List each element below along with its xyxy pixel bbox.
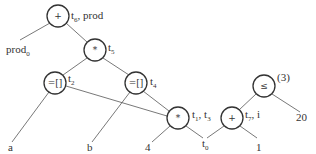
leaf-prod0: prod0	[6, 43, 30, 58]
node-leq: ≤ (3)	[253, 71, 290, 97]
node-plus-right: + t7, i	[221, 107, 260, 129]
edge-timeslow-t0	[186, 126, 203, 138]
edge-plusright-t0	[207, 126, 224, 138]
svg-text:≤: ≤	[260, 81, 268, 91]
leaf-t0: t0	[202, 137, 209, 152]
edge-indexright-timeslow	[143, 91, 169, 111]
node-times-low: * t1, t3	[167, 107, 211, 129]
svg-text:=[]: =[]	[129, 78, 144, 88]
edge-timeslow-4	[152, 126, 170, 142]
edge-plus-prod0	[20, 23, 50, 40]
leaf-1: 1	[256, 141, 262, 153]
svg-text:=[]: =[]	[48, 78, 63, 88]
edge-indexleft-timeslow	[66, 86, 167, 116]
edge-plus-times	[66, 23, 87, 42]
edge-plusright-1	[240, 126, 257, 138]
node-label: t1, t3	[192, 108, 211, 123]
leaf-b: b	[87, 141, 93, 153]
node-label: t7, i	[245, 108, 260, 123]
edge-indexleft-a	[12, 92, 49, 142]
edge-times-indexleft	[63, 58, 87, 75]
node-index-left: =[] t2	[44, 72, 75, 94]
node-label: t2	[68, 72, 75, 87]
leaf-4: 4	[145, 141, 151, 153]
edge-leq-20	[272, 94, 300, 112]
node-label: (3)	[277, 71, 290, 84]
node-index-right: =[] t4	[125, 72, 157, 94]
node-label: t4	[150, 75, 157, 90]
node-times-mid: * t5	[84, 39, 115, 61]
edge-times-indexright	[103, 58, 129, 75]
expression-dag-diagram: + t6, prod * t5 =[] t2 =[] t4 * t1, t3 +…	[0, 0, 316, 154]
svg-text:+: +	[228, 113, 236, 123]
node-label: t5	[108, 41, 115, 56]
svg-text:*: *	[176, 113, 181, 123]
node-plus-top: + t6, prod	[47, 5, 104, 27]
svg-text:+: +	[54, 11, 62, 21]
svg-text:*: *	[93, 45, 98, 55]
leaf-20: 20	[296, 111, 308, 123]
node-label: t6, prod	[71, 9, 104, 24]
leaf-a: a	[8, 141, 13, 153]
